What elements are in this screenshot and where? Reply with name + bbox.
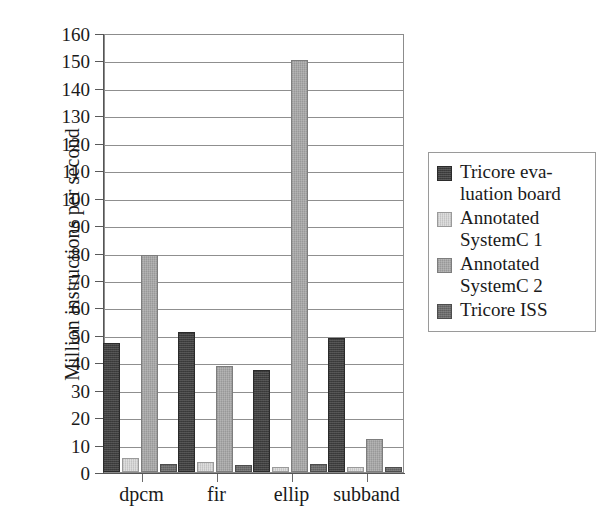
y-axis-tick-label: 120 bbox=[62, 135, 91, 154]
y-axis-tick-label: 160 bbox=[62, 25, 91, 44]
plot-area bbox=[104, 34, 404, 473]
bar bbox=[253, 370, 270, 472]
y-axis-tick-label: 90 bbox=[71, 217, 90, 236]
bar bbox=[103, 343, 120, 472]
bar bbox=[310, 464, 327, 472]
legend-item[interactable]: AnnotatedSystemC 1 bbox=[437, 207, 588, 251]
bar bbox=[366, 439, 383, 472]
y-axis-tick-group: 0102030405060708090100110120130140150160 bbox=[0, 0, 104, 530]
legend-swatch-icon bbox=[437, 212, 452, 227]
y-axis-tick-label: 0 bbox=[81, 464, 91, 483]
gridline bbox=[105, 227, 403, 228]
bar bbox=[328, 338, 345, 472]
bar bbox=[291, 60, 308, 472]
y-axis-tick-label: 10 bbox=[71, 437, 90, 456]
y-axis-tick-label: 150 bbox=[62, 52, 91, 71]
y-axis-tick-label: 140 bbox=[62, 80, 91, 99]
legend-item-label: AnnotatedSystemC 2 bbox=[460, 253, 543, 297]
gridline bbox=[105, 117, 403, 118]
bar bbox=[122, 458, 139, 472]
x-axis-tick-mark bbox=[142, 474, 143, 482]
y-axis-tick-label: 20 bbox=[71, 409, 90, 428]
gridline bbox=[105, 62, 403, 63]
y-axis-tick-label: 130 bbox=[62, 107, 91, 126]
y-axis-tick-label: 100 bbox=[62, 190, 91, 209]
x-axis-tick-label-subband: subband bbox=[307, 483, 427, 506]
gridline bbox=[105, 200, 403, 201]
y-axis-tick-label: 60 bbox=[71, 299, 90, 318]
bar bbox=[160, 464, 177, 472]
legend-item[interactable]: AnnotatedSystemC 2 bbox=[437, 253, 588, 297]
gridline bbox=[105, 90, 403, 91]
gridline bbox=[105, 172, 403, 173]
bar bbox=[141, 255, 158, 472]
y-axis-tick-label: 40 bbox=[71, 354, 90, 373]
legend-item-label: Tricore ISS bbox=[460, 299, 547, 321]
y-axis-tick-label: 50 bbox=[71, 327, 90, 346]
bar bbox=[272, 467, 289, 472]
x-axis-line bbox=[104, 473, 405, 474]
x-axis-tick-mark bbox=[217, 474, 218, 482]
legend-item-label: AnnotatedSystemC 1 bbox=[460, 207, 543, 251]
bar bbox=[385, 467, 402, 472]
x-axis-tick-mark bbox=[367, 474, 368, 482]
x-axis-tick-mark bbox=[292, 474, 293, 482]
bar-chart-figure: Million instructions per second 01020304… bbox=[0, 0, 613, 530]
legend: Tricore eva-luation boardAnnotatedSystem… bbox=[428, 152, 596, 332]
y-axis-tick-label: 30 bbox=[71, 382, 90, 401]
y-axis-tick-label: 70 bbox=[71, 272, 90, 291]
bar bbox=[197, 462, 214, 472]
y-axis-tick-label: 80 bbox=[71, 245, 90, 264]
bar bbox=[178, 332, 195, 472]
bar bbox=[235, 465, 252, 472]
bar bbox=[216, 366, 233, 472]
legend-swatch-icon bbox=[437, 166, 452, 181]
bar bbox=[347, 467, 364, 472]
y-axis-tick-label: 110 bbox=[62, 162, 90, 181]
legend-swatch-icon bbox=[437, 304, 452, 319]
legend-item[interactable]: Tricore eva-luation board bbox=[437, 161, 588, 205]
gridline bbox=[105, 145, 403, 146]
legend-item-label: Tricore eva-luation board bbox=[460, 161, 561, 205]
legend-item[interactable]: Tricore ISS bbox=[437, 299, 588, 321]
legend-swatch-icon bbox=[437, 258, 452, 273]
